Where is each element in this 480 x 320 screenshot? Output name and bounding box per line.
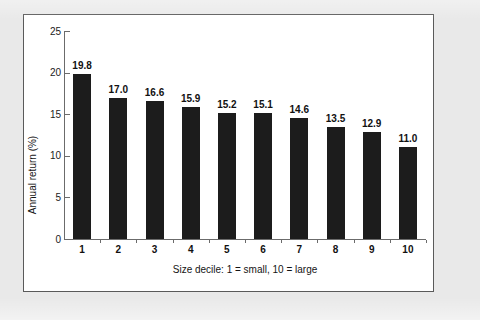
bars-layer: 19.817.016.615.915.215.114.613.512.911.0 xyxy=(24,15,433,239)
bar-rect xyxy=(363,132,381,239)
x-axis-tick-mark xyxy=(173,240,174,243)
x-axis-tick-mark xyxy=(281,240,282,243)
bar-value-label: 13.5 xyxy=(326,114,345,124)
bar-value-label: 15.1 xyxy=(253,100,272,110)
x-axis-category-label: 5 xyxy=(224,245,230,255)
bar: 15.2 xyxy=(218,113,236,239)
bar-rect xyxy=(182,107,200,239)
bar: 14.6 xyxy=(290,118,308,239)
x-axis-tick-mark xyxy=(317,240,318,243)
x-axis-title: Size decile: 1 = small, 10 = large xyxy=(64,265,426,275)
x-axis-category-label: 3 xyxy=(152,245,158,255)
x-axis-tick-mark xyxy=(426,240,427,243)
x-axis-category-label: 9 xyxy=(369,245,375,255)
x-axis-category-label: 6 xyxy=(260,245,266,255)
x-axis-category-label: 1 xyxy=(79,245,85,255)
bar: 13.5 xyxy=(327,127,345,239)
bar: 15.1 xyxy=(254,113,272,239)
y-axis-tick-mark xyxy=(65,239,70,240)
x-axis-tick-mark xyxy=(136,240,137,243)
x-axis-category-label: 4 xyxy=(188,245,194,255)
plot-area: Annual return (%) 0510152025 19.817.016.… xyxy=(24,15,433,291)
bar-value-label: 11.0 xyxy=(398,134,417,144)
bar-value-label: 16.6 xyxy=(145,88,164,98)
x-axis-category-label: 7 xyxy=(297,245,303,255)
bar-rect xyxy=(327,127,345,239)
x-axis-category-label: 8 xyxy=(333,245,339,255)
x-axis-category-label: 10 xyxy=(402,245,413,255)
bar: 12.9 xyxy=(363,132,381,239)
bar-value-label: 17.0 xyxy=(109,85,128,95)
bar-rect xyxy=(399,147,417,239)
x-axis-tick-mark xyxy=(354,240,355,243)
bar-rect xyxy=(73,74,91,239)
bar-value-label: 12.9 xyxy=(362,119,381,129)
x-axis-tick-mark xyxy=(245,240,246,243)
figure-root: Annual return (%) 0510152025 19.817.016.… xyxy=(0,0,480,320)
y-axis-tick: 0 xyxy=(65,239,70,240)
bar-rect xyxy=(218,113,236,239)
bar-value-label: 15.2 xyxy=(217,100,236,110)
chart-panel: Annual return (%) 0510152025 19.817.016.… xyxy=(23,14,434,292)
bar-value-label: 19.8 xyxy=(72,61,91,71)
bar: 17.0 xyxy=(109,98,127,239)
bar-value-label: 15.9 xyxy=(181,94,200,104)
x-axis-category-label: 2 xyxy=(116,245,122,255)
x-axis-tick-mark xyxy=(209,240,210,243)
bar-rect xyxy=(146,101,164,239)
bar-rect xyxy=(109,98,127,239)
bar-rect xyxy=(254,113,272,239)
bar: 16.6 xyxy=(146,101,164,239)
x-axis-tick-mark xyxy=(390,240,391,243)
bar-rect xyxy=(290,118,308,239)
bar: 19.8 xyxy=(73,74,91,239)
bar: 15.9 xyxy=(182,107,200,239)
x-axis-tick-mark xyxy=(100,240,101,243)
bar-value-label: 14.6 xyxy=(290,105,309,115)
bar: 11.0 xyxy=(399,147,417,239)
